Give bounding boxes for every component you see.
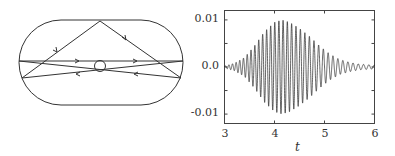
stadium-billiard-diagram xyxy=(0,0,200,156)
x-tick-label: 4 xyxy=(265,127,285,140)
x-axis-title: t xyxy=(295,140,300,154)
y-tick-label: 0.01 xyxy=(189,12,219,25)
x-tick-label: 6 xyxy=(365,127,385,140)
x-tick-label: 5 xyxy=(315,127,335,140)
y-tick-label: -0.01 xyxy=(189,106,219,119)
signal-line xyxy=(225,20,375,113)
x-tick-label: 3 xyxy=(215,127,235,140)
arrow-icon xyxy=(53,47,57,52)
arrow-icon xyxy=(134,72,138,76)
signal-chart: 0.01 0.0 -0.01 3 4 5 6 t xyxy=(195,0,395,156)
y-tick-label: 0.0 xyxy=(189,59,219,72)
